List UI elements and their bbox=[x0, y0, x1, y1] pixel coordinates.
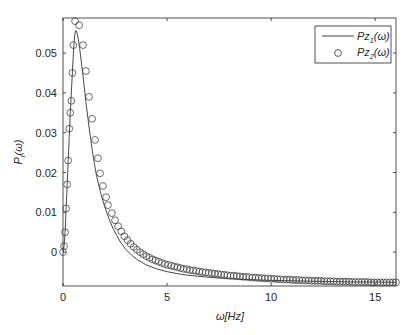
y-tick-label: 0.04 bbox=[36, 87, 57, 99]
pz2-marker bbox=[115, 223, 122, 230]
pz2-marker bbox=[95, 155, 102, 162]
pz2-marker bbox=[86, 93, 93, 100]
pz2-marker bbox=[92, 136, 99, 143]
pz2-marker bbox=[100, 183, 107, 190]
pz2-marker bbox=[118, 228, 125, 235]
y-tick-label: 0.01 bbox=[36, 206, 57, 218]
pz2-marker bbox=[72, 18, 79, 25]
y-tick-label: 0.03 bbox=[36, 127, 57, 139]
pz2-marker bbox=[82, 68, 89, 75]
chart: 00.010.020.030.040.05 051015 ω[Hz] Pi(ω)… bbox=[0, 0, 413, 335]
x-tick-label: 5 bbox=[164, 291, 170, 303]
x-axis-label: ω[Hz] bbox=[216, 310, 245, 322]
y-tick-label: 0 bbox=[51, 246, 57, 258]
y-axis-label: Pi(ω) bbox=[12, 139, 26, 164]
legend-label-pz2: Pz2(ω) bbox=[357, 46, 390, 60]
legend: Pz1(ω) Pz2(ω) bbox=[315, 26, 391, 63]
y-tick-label: 0.05 bbox=[36, 47, 57, 59]
x-tick-label: 10 bbox=[265, 291, 277, 303]
x-tick-label: 0 bbox=[60, 291, 66, 303]
pz2-marker bbox=[109, 210, 116, 217]
pz2-marker bbox=[89, 115, 96, 122]
x-tick-label: 15 bbox=[369, 291, 381, 303]
y-axis-ticks: 00.010.020.030.040.05 bbox=[36, 47, 396, 258]
y-tick-label: 0.02 bbox=[36, 167, 57, 179]
pz1-curve bbox=[63, 31, 396, 283]
series-pz1-line bbox=[63, 31, 396, 283]
pz2-marker bbox=[76, 22, 83, 29]
legend-label-pz1: Pz1(ω) bbox=[357, 30, 390, 44]
pz2-marker bbox=[103, 194, 110, 201]
pz2-marker bbox=[80, 42, 87, 49]
pz2-marker bbox=[105, 202, 112, 209]
pz2-marker bbox=[97, 170, 104, 177]
